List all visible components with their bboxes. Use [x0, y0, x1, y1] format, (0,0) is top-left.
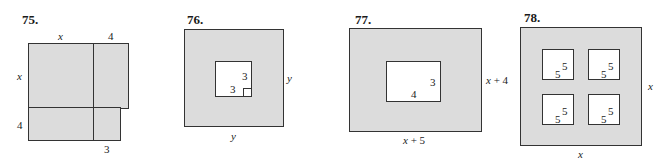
label-inner-3-vertical: 3	[242, 70, 248, 82]
label-left-4: 4	[17, 119, 23, 131]
right-angle-marker	[243, 88, 251, 96]
hole-label: 5	[555, 68, 561, 80]
figure-number: 78.	[524, 10, 540, 26]
label-outer-y-right: y	[287, 72, 292, 84]
label-outer-right: x + 4	[486, 74, 508, 86]
outer-square	[520, 27, 642, 146]
region-x-by-4	[28, 107, 95, 141]
hole-label: 5	[555, 113, 561, 125]
label-outer-x-right: x	[648, 80, 653, 92]
hole-label: 5	[562, 105, 568, 117]
figure-number: 77.	[355, 12, 371, 28]
region-3-by-4	[93, 107, 121, 141]
label-outer-y-bottom: y	[231, 130, 236, 142]
figure-number: 76.	[187, 12, 203, 28]
label-outer-bottom: x + 5	[403, 134, 425, 146]
label-top-4: 4	[108, 30, 114, 42]
label-inner-4: 4	[411, 88, 417, 100]
hole-label: 5	[601, 68, 607, 80]
hole-label: 5	[608, 105, 614, 117]
label-outer-x-bottom: x	[578, 148, 583, 160]
label-left-x: x	[17, 70, 22, 82]
label-top-x: x	[58, 30, 63, 42]
hole-label: 5	[601, 113, 607, 125]
region-x-by-x	[28, 43, 95, 109]
figure-number: 75.	[22, 12, 38, 28]
label-bottom-3: 3	[104, 143, 110, 155]
label-inner-3-horizontal: 3	[230, 83, 236, 95]
region-4-by-x	[93, 43, 129, 109]
label-inner-3: 3	[430, 76, 436, 88]
hole-label: 5	[562, 60, 568, 72]
hole-label: 5	[608, 60, 614, 72]
